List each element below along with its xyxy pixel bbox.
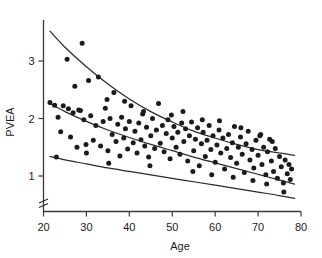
data-point	[158, 141, 163, 146]
y-tick-label-3: 3	[28, 55, 34, 67]
data-point	[115, 122, 120, 127]
data-point	[98, 144, 103, 149]
data-point	[189, 119, 194, 124]
data-point	[285, 171, 290, 176]
data-point	[240, 152, 245, 157]
data-point	[106, 161, 111, 166]
x-axis-title: Age	[170, 240, 190, 252]
data-point	[74, 145, 79, 150]
x-tick-label-40: 40	[123, 221, 135, 233]
data-point	[129, 103, 134, 108]
data-point	[214, 142, 219, 147]
data-point	[58, 129, 63, 134]
data-point	[253, 138, 258, 143]
data-point	[179, 121, 184, 126]
data-point	[170, 136, 175, 141]
data-point	[213, 160, 218, 165]
data-point	[234, 161, 239, 166]
data-point	[193, 137, 198, 142]
data-point	[205, 138, 210, 143]
data-point	[169, 113, 174, 118]
data-point	[261, 145, 266, 150]
data-point	[122, 99, 127, 104]
data-point	[270, 139, 275, 144]
data-point	[131, 140, 136, 145]
x-tick-label-70: 70	[252, 221, 264, 233]
data-point	[142, 144, 147, 149]
data-point	[183, 126, 188, 131]
data-point	[154, 128, 159, 133]
data-point	[93, 123, 98, 128]
data-point	[281, 180, 286, 185]
data-point	[105, 148, 110, 153]
y-tick-label-1: 1	[28, 170, 34, 182]
pvea-age-scatter-figure: 20304050607080 123 Age PVEA	[0, 0, 322, 258]
data-point	[288, 177, 293, 182]
data-point	[175, 130, 180, 135]
data-point	[103, 106, 108, 111]
data-point	[275, 176, 280, 181]
data-point	[220, 136, 225, 141]
data-point	[171, 124, 176, 129]
data-point	[238, 125, 243, 130]
data-point	[105, 97, 110, 102]
data-point	[195, 125, 200, 130]
data-point	[174, 145, 179, 150]
data-point	[250, 178, 255, 183]
lower-percentile-curve	[50, 156, 295, 198]
data-point	[231, 175, 236, 180]
data-point	[177, 152, 182, 157]
x-tick-label-80: 80	[295, 221, 307, 233]
data-point	[286, 162, 291, 167]
data-point	[65, 57, 70, 62]
data-point	[251, 165, 256, 170]
data-point	[96, 75, 101, 80]
data-point	[222, 167, 227, 172]
data-point	[199, 141, 204, 146]
data-point	[127, 119, 132, 124]
y-tick-label-2: 2	[28, 113, 34, 125]
data-point	[150, 116, 155, 121]
data-point	[81, 117, 86, 122]
data-point	[259, 162, 264, 167]
data-point	[283, 157, 288, 162]
data-point	[78, 108, 83, 113]
data-point	[281, 190, 286, 195]
data-point	[108, 116, 113, 121]
data-point	[164, 131, 169, 136]
data-point	[191, 148, 196, 153]
data-point	[273, 146, 278, 151]
x-tick-label-20: 20	[37, 221, 49, 233]
data-point	[162, 149, 167, 154]
data-point	[148, 133, 153, 138]
data-point	[91, 138, 96, 143]
data-point	[125, 146, 130, 151]
data-point	[101, 119, 106, 124]
data-point	[111, 90, 116, 95]
data-point	[269, 159, 274, 164]
data-point	[180, 109, 185, 114]
y-axis-ticks: 123	[28, 55, 43, 182]
data-point	[226, 132, 231, 137]
data-point	[264, 182, 269, 187]
plot-canvas: 20304050607080 123 Age PVEA	[0, 0, 322, 258]
x-tick-label-60: 60	[209, 221, 221, 233]
data-point	[141, 109, 146, 114]
data-point	[138, 137, 143, 142]
data-point	[256, 153, 261, 158]
data-point	[54, 155, 59, 160]
data-point	[232, 124, 237, 129]
data-point	[211, 133, 216, 138]
data-point	[265, 149, 270, 154]
data-point	[289, 167, 294, 172]
data-point	[185, 159, 190, 164]
data-point	[66, 106, 71, 111]
data-point	[84, 151, 89, 156]
data-point	[209, 172, 214, 177]
data-point	[52, 103, 57, 108]
data-point	[110, 132, 115, 137]
x-tick-label-50: 50	[166, 221, 178, 233]
data-point	[190, 169, 195, 174]
data-point	[71, 110, 76, 115]
data-point	[156, 101, 161, 106]
